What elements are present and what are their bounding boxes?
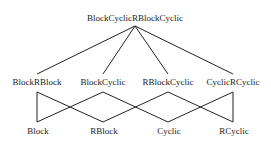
lattice-diagram: BlockCyclicRBlockCyclic BlockRBlock Bloc… [0, 0, 271, 147]
edge-line [103, 26, 135, 74]
leaf-node-label: Block [27, 127, 49, 136]
leaf-node-label: RBlock [90, 127, 118, 136]
edge-line [37, 26, 135, 74]
leaf-node-label: RCyclic [219, 127, 249, 136]
middle-node-label: RBlockCyclic [143, 78, 194, 87]
middle-node-label: BlockRBlock [13, 78, 62, 87]
middle-node-label: BlockCyclic [81, 78, 126, 87]
edge-line [135, 26, 168, 74]
middle-node-label: CyclicRCyclic [207, 78, 260, 87]
edge-line [135, 26, 233, 74]
leaf-node-label: Cyclic [157, 127, 181, 136]
root-node-label: BlockCyclicRBlockCyclic [87, 14, 183, 23]
